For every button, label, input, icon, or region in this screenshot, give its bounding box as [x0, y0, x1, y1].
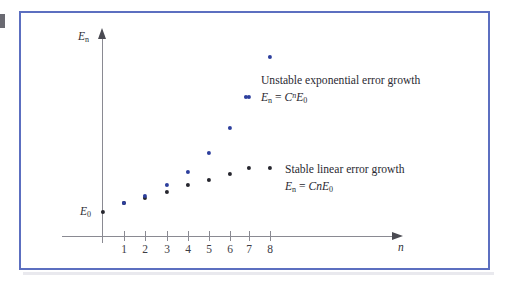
x-tick-label-8: 8	[267, 243, 273, 255]
data-point-exponential-4	[207, 151, 211, 155]
x-tick-1	[124, 231, 125, 241]
y-axis-arrow-icon	[98, 28, 106, 39]
data-point-linear-3	[165, 190, 169, 194]
data-point-exponential-0	[122, 201, 126, 205]
x-tick-label-7: 7	[246, 243, 252, 255]
legend-label-linear: Stable linear error growth	[285, 162, 404, 177]
x-tick-3	[167, 231, 168, 241]
x-tick-8	[270, 231, 271, 241]
legend-formula-exponential: En = CnE0	[261, 90, 307, 106]
data-point-exponential-5	[228, 126, 232, 130]
x-axis-arrow-icon	[392, 232, 403, 240]
data-point-linear-4	[186, 183, 190, 187]
data-point-linear-6	[228, 172, 232, 176]
x-tick-5	[209, 231, 210, 241]
x-tick-label-2: 2	[142, 243, 148, 255]
x-tick-label-4: 4	[185, 243, 191, 255]
x-tick-6	[230, 231, 231, 241]
x-tick-2	[145, 231, 146, 241]
x-tick-label-1: 1	[121, 243, 127, 255]
data-point-linear-7	[247, 166, 251, 170]
x-tick-4	[188, 231, 189, 241]
legend-formula-linear: En = CnE0	[285, 179, 333, 195]
origin-label: E0	[80, 205, 91, 219]
data-point-exponential-7	[268, 55, 272, 59]
x-tick-label-5: 5	[206, 243, 212, 255]
x-tick-7	[249, 231, 250, 241]
x-tick-label-6: 6	[227, 243, 233, 255]
data-point-linear-0	[101, 210, 105, 214]
legend-marker-linear	[268, 166, 272, 170]
y-axis-label: En	[78, 30, 89, 44]
legend-label-exponential: Unstable exponential error growth	[261, 73, 420, 88]
data-point-exponential-2	[165, 183, 169, 187]
x-tick-label-3: 3	[164, 243, 170, 255]
scatter-plot: En E0 n 1 2 3 4 5 6 7 8 Unstable exponen…	[0, 0, 513, 287]
x-axis-label: n	[398, 241, 404, 253]
data-point-linear-5	[207, 178, 211, 182]
figure-stage: En E0 n 1 2 3 4 5 6 7 8 Unstable exponen…	[0, 0, 513, 287]
data-point-exponential-3	[186, 170, 190, 174]
